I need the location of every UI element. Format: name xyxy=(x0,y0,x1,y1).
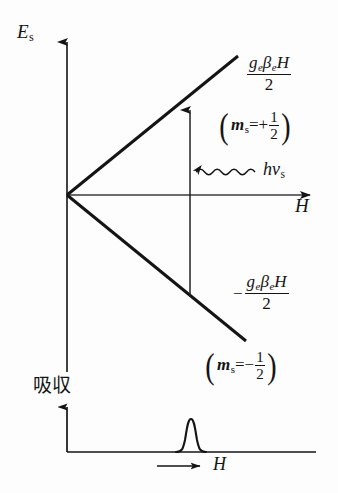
ms-value-fraction: 12 xyxy=(268,110,279,142)
lower-branch-energy-expression: − geβeH 2 xyxy=(233,273,289,313)
ms-symbol: m xyxy=(231,115,244,134)
paren-left: ( xyxy=(205,355,214,377)
absorption-peak-curve xyxy=(176,419,206,452)
field-axis-label: H xyxy=(295,196,309,215)
ms-value-denominator: 2 xyxy=(255,366,265,382)
frequency-symbol: ν xyxy=(272,159,280,179)
ms-symbol: m xyxy=(217,355,230,374)
spin-up-state-body: ms=+12 xyxy=(230,110,280,142)
energy-axis-label-subscript: s xyxy=(29,30,34,44)
field-symbol: H xyxy=(274,272,286,291)
spin-down-state-label: (ms=−12) xyxy=(204,350,278,382)
energy-line-spin-down xyxy=(67,195,246,341)
upper-energy-numerator: geβeH xyxy=(247,54,291,75)
energy-axis-label: Es xyxy=(17,22,34,44)
field-symbol: H xyxy=(277,53,289,72)
lower-energy-numerator: geβeH xyxy=(245,273,289,294)
absorption-axis-label: 吸収 xyxy=(33,376,71,395)
lower-energy-fraction: geβeH 2 xyxy=(245,273,289,313)
paren-right: ) xyxy=(267,355,276,377)
ms-value-denominator: 2 xyxy=(269,126,279,142)
upper-energy-denominator: 2 xyxy=(247,75,291,94)
g-symbol: g xyxy=(249,53,258,72)
ms-relation: =+ xyxy=(249,115,268,134)
paren-left: ( xyxy=(219,115,228,137)
zeeman-splitting-figure: Es H geβeH 2 (ms=+12) hνs − geβeH 2 (ms=… xyxy=(0,0,338,493)
photon-energy-label: hνs xyxy=(263,160,285,181)
frequency-subscript: s xyxy=(280,168,285,180)
spin-up-state-label: (ms=+12) xyxy=(218,110,292,142)
photon-wavy-arrow xyxy=(196,169,255,174)
energy-line-spin-up xyxy=(67,56,238,195)
upper-energy-fraction: geβeH 2 xyxy=(247,54,291,94)
planck-constant-symbol: h xyxy=(263,159,272,179)
ms-relation: =− xyxy=(235,355,254,374)
lower-energy-denominator: 2 xyxy=(245,294,289,313)
ms-value-numerator: 1 xyxy=(255,350,265,366)
ms-value-numerator: 1 xyxy=(269,110,279,126)
absorption-field-axis-label: H xyxy=(213,455,226,473)
energy-axis-label-symbol: E xyxy=(17,21,29,42)
beta-symbol: β xyxy=(260,272,268,291)
spin-down-state-body: ms=−12 xyxy=(216,350,266,382)
lower-energy-sign: − xyxy=(233,285,245,302)
g-symbol: g xyxy=(247,272,256,291)
upper-branch-energy-expression: geβeH 2 xyxy=(247,54,291,94)
ms-value-fraction: 12 xyxy=(254,350,265,382)
paren-right: ) xyxy=(281,115,290,137)
